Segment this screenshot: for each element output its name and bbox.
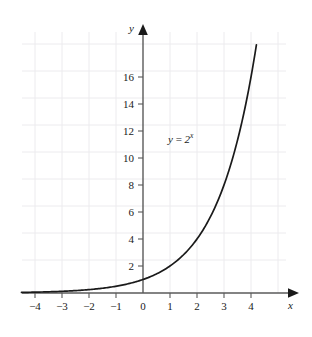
exponential-curve bbox=[22, 45, 257, 293]
curve-label-exponent: x bbox=[190, 131, 193, 140]
x-tick-label: −1 bbox=[110, 300, 122, 312]
x-axis-letter: x bbox=[288, 299, 293, 311]
x-axis bbox=[22, 288, 299, 298]
plot-canvas bbox=[0, 0, 312, 337]
y-tick-label: 16 bbox=[123, 71, 134, 83]
curve-equation-label: y = 2x bbox=[168, 131, 193, 145]
x-tick-label: −4 bbox=[29, 300, 41, 312]
curve-label-equals: = bbox=[176, 133, 182, 145]
y-axis-ticks bbox=[138, 77, 143, 266]
y-tick-label: 4 bbox=[129, 233, 135, 245]
x-tick-label: 1 bbox=[167, 300, 173, 312]
x-tick-label: −2 bbox=[83, 300, 95, 312]
x-tick-label: 0 bbox=[140, 300, 146, 312]
x-tick-label: −3 bbox=[56, 300, 68, 312]
grid-lines bbox=[22, 32, 286, 293]
y-tick-label: 10 bbox=[123, 152, 134, 164]
exponential-function-figure: −4 −3 −2 −1 0 1 2 3 4 2 4 6 8 10 12 14 1… bbox=[0, 0, 312, 337]
y-tick-label: 2 bbox=[129, 260, 135, 272]
x-tick-label: 3 bbox=[221, 300, 227, 312]
y-axis bbox=[138, 24, 148, 293]
y-tick-label: 8 bbox=[129, 179, 135, 191]
x-tick-label: 4 bbox=[248, 300, 254, 312]
x-axis-ticks bbox=[35, 293, 251, 298]
y-tick-label: 6 bbox=[129, 206, 135, 218]
y-tick-label: 12 bbox=[123, 125, 134, 137]
y-axis-letter: y bbox=[129, 22, 134, 34]
x-tick-label: 2 bbox=[194, 300, 200, 312]
y-tick-label: 14 bbox=[123, 98, 134, 110]
curve-label-lhs: y bbox=[168, 133, 173, 145]
